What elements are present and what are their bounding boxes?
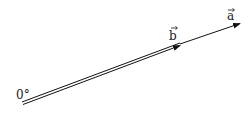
vector-b [22, 43, 180, 105]
label-a: a [227, 9, 235, 24]
vector-a [180, 24, 240, 45]
origin-label: 0° [16, 88, 30, 102]
vector-diagram: 0° b a [0, 0, 252, 116]
label-b: b [169, 27, 178, 44]
label-b-text: b [169, 29, 177, 43]
